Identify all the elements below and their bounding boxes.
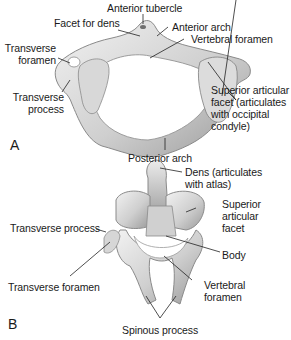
panel-letter-a: A xyxy=(10,137,19,153)
label-anterior-tubercle: Anterior tubercle xyxy=(107,2,182,14)
label-anterior-arch: Anterior arch xyxy=(172,21,231,33)
label-transverse-process-a: Transverse process xyxy=(12,91,64,115)
label-dens: Dens (articulates with atlas) xyxy=(185,166,262,190)
panel-letter-b: B xyxy=(8,316,17,332)
label-transverse-process-b: Transverse process xyxy=(10,222,100,234)
label-spinous-process: Spinous process xyxy=(122,324,198,336)
label-superior-articular-facet-b: Superior articular facet xyxy=(222,198,261,234)
label-facet-for-dens: Facet for dens xyxy=(54,17,120,29)
label-posterior-arch: Posterior arch xyxy=(128,152,192,164)
label-transverse-foramen-a: Transverse foramen xyxy=(2,42,56,66)
label-vertebral-foramen-a: Vertebral foramen xyxy=(191,33,273,45)
label-body: Body xyxy=(222,249,246,261)
label-superior-articular-facet-a: Superior articular facet (articulates wi… xyxy=(211,84,289,132)
label-vertebral-foramen-b: Vertebral foramen xyxy=(204,279,245,303)
label-transverse-foramen-b: Transverse foramen xyxy=(8,281,100,293)
